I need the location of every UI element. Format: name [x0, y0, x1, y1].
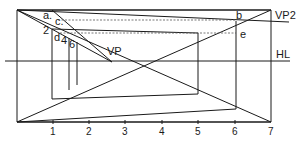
- label-4: 4: [61, 34, 67, 46]
- label-6: 6: [69, 38, 75, 50]
- inner-rectangle: [17, 21, 236, 122]
- tick-label-4: 4: [159, 126, 165, 137]
- label-e: e: [240, 28, 246, 40]
- perspective-diagram: a. c. 2 d 4 6 VP b e VP2 HL 1 2 3 4 5 6 …: [0, 0, 301, 147]
- label-2: 2: [43, 24, 49, 36]
- tick-label-6: 6: [232, 126, 238, 137]
- label-c: c.: [55, 15, 64, 27]
- label-vp: VP: [107, 45, 122, 57]
- label-vp2: VP2: [275, 9, 296, 21]
- label-b: b: [236, 9, 242, 21]
- label-a: a.: [43, 9, 52, 21]
- tick-label-7: 7: [268, 126, 274, 137]
- label-d: d: [54, 31, 60, 43]
- line-2-to-e: [52, 29, 198, 33]
- tick-label-3: 3: [122, 126, 128, 137]
- tick-label-2: 2: [86, 126, 92, 137]
- label-hl: HL: [276, 48, 290, 60]
- tick-label-1: 1: [50, 126, 56, 137]
- tick-label-5: 5: [195, 126, 201, 137]
